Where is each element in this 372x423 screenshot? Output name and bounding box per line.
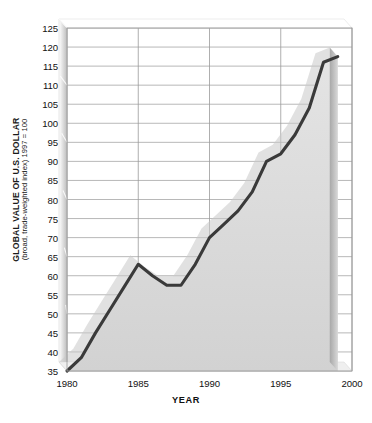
chart-figure: (broad, trade-weighted index) 1997 = 100… [0,0,372,423]
plot-area [0,0,372,423]
